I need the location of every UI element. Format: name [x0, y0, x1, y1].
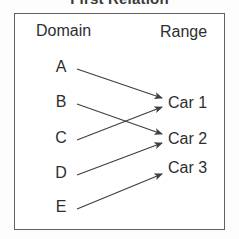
range-item-car1: Car 1 [168, 94, 207, 112]
figure-title: First Relation [0, 0, 239, 7]
relation-figure: First Relation Domain Range A B C D E Ca… [0, 0, 239, 239]
diagram-box [14, 13, 225, 230]
domain-header: Domain [36, 22, 91, 40]
range-item-car3: Car 3 [168, 159, 207, 177]
domain-item-d: D [52, 164, 70, 182]
domain-item-c: C [52, 129, 70, 147]
domain-item-e: E [52, 198, 70, 216]
range-header: Range [160, 23, 207, 41]
domain-item-a: A [52, 58, 70, 76]
range-item-car2: Car 2 [168, 130, 207, 148]
domain-item-b: B [52, 93, 70, 111]
